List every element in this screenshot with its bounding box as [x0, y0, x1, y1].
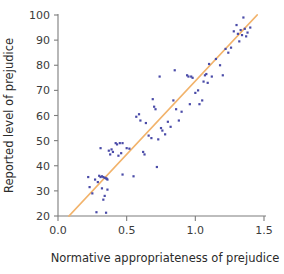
data-point: [227, 52, 229, 54]
data-point: [241, 34, 243, 36]
data-point: [172, 99, 174, 101]
y-axis-title: Reported level of prejudice: [2, 38, 16, 193]
data-point: [167, 121, 169, 123]
data-point: [94, 178, 96, 180]
data-point: [145, 122, 147, 124]
y-axis-tick-label: 30: [36, 185, 50, 198]
data-point: [108, 150, 110, 152]
data-point: [222, 74, 224, 76]
data-point: [245, 35, 247, 37]
data-point: [207, 82, 209, 84]
x-axis-tick-label: 1.5: [255, 224, 273, 237]
data-point: [156, 166, 158, 168]
data-point: [237, 33, 239, 35]
data-point: [242, 16, 244, 18]
data-point: [224, 48, 226, 50]
data-point: [175, 108, 177, 110]
data-point: [240, 29, 242, 31]
data-point: [121, 142, 123, 144]
data-point: [102, 199, 104, 201]
data-point: [117, 155, 119, 157]
data-point: [154, 108, 156, 110]
data-point: [132, 175, 134, 177]
data-point: [143, 153, 145, 155]
data-point: [198, 103, 200, 105]
data-point: [159, 75, 161, 77]
y-axis-tick-label: 90: [36, 34, 50, 47]
data-point: [170, 126, 172, 128]
data-point: [215, 58, 217, 60]
data-point: [181, 111, 183, 113]
data-point: [139, 119, 141, 121]
data-point: [246, 31, 248, 33]
data-point: [152, 98, 154, 100]
data-point: [191, 77, 193, 79]
data-point: [161, 129, 163, 131]
data-point: [121, 173, 123, 175]
data-point: [148, 135, 150, 137]
data-point: [249, 26, 251, 28]
data-point: [106, 189, 108, 191]
data-point: [238, 40, 240, 42]
chart-figure: 20304050607080901000.00.51.01.5 Normativ…: [0, 0, 284, 274]
data-point: [235, 24, 237, 26]
x-axis-title: Normative appropriateness of prejudice: [51, 251, 280, 265]
data-point: [119, 142, 121, 144]
y-axis-tick-label: 20: [36, 210, 50, 223]
data-point: [189, 103, 191, 105]
data-point: [110, 148, 112, 150]
data-point: [135, 116, 137, 118]
data-point: [95, 211, 97, 213]
data-point: [97, 181, 99, 183]
data-point: [99, 147, 101, 149]
data-point: [91, 192, 93, 194]
data-point: [164, 133, 166, 135]
data-point: [112, 151, 114, 153]
data-point: [211, 75, 213, 77]
y-axis-tick-label: 50: [36, 135, 50, 148]
data-point: [126, 147, 128, 149]
data-point: [197, 89, 199, 91]
y-axis-tick-label: 60: [36, 110, 50, 123]
x-axis-tick-label: 1.0: [187, 224, 205, 237]
y-axis-tick-label: 40: [36, 160, 50, 173]
y-axis-tick-label: 70: [36, 84, 50, 97]
y-axis-tick-label: 100: [29, 9, 50, 22]
data-point: [157, 138, 159, 140]
data-point: [160, 127, 162, 129]
data-point: [138, 113, 140, 115]
data-point: [142, 151, 144, 153]
scatter-plot: 20304050607080901000.00.51.01.5 Normativ…: [0, 0, 284, 274]
data-point: [88, 186, 90, 188]
y-axis-tick-label: 80: [36, 59, 50, 72]
data-point: [109, 153, 111, 155]
data-point: [120, 152, 122, 154]
data-point: [153, 106, 155, 108]
data-point: [87, 176, 89, 178]
data-point: [174, 69, 176, 71]
data-point: [105, 212, 107, 214]
data-point: [208, 63, 210, 65]
data-point: [219, 64, 221, 66]
data-point: [128, 148, 130, 150]
data-point: [104, 195, 106, 197]
data-point: [116, 143, 118, 145]
x-axis-tick-label: 0.5: [118, 224, 136, 237]
data-point: [233, 30, 235, 32]
data-point: [178, 119, 180, 121]
data-point: [244, 28, 246, 30]
data-point: [187, 75, 189, 77]
data-point: [101, 187, 103, 189]
data-point: [201, 99, 203, 101]
data-point: [150, 137, 152, 139]
x-axis-tick-label: 0.0: [49, 224, 67, 237]
data-point: [194, 92, 196, 94]
data-point: [106, 178, 108, 180]
data-point: [202, 80, 204, 82]
data-point: [230, 47, 232, 49]
data-point: [205, 73, 207, 75]
